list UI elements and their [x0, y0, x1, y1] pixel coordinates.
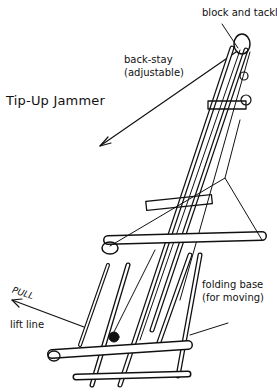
diagram-title: Tip-Up Jammer	[6, 93, 105, 108]
label-block-and-tackle: block and tackle	[202, 7, 277, 19]
label-back-stay-adjustable: (adjustable)	[124, 67, 184, 79]
label-back-stay: back-stay	[124, 54, 173, 66]
label-folding-base: folding base	[202, 279, 263, 291]
diagram-canvas: block and tackle back-stay (adjustable) …	[0, 0, 277, 392]
label-lift-line: lift line	[10, 319, 44, 331]
label-folding-base-moving: (for moving)	[202, 292, 264, 304]
